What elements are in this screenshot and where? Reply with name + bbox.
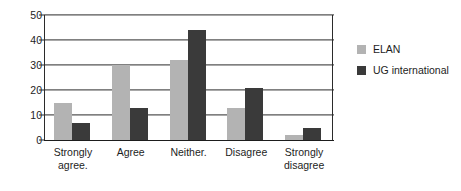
y-tick-mark	[39, 40, 44, 41]
bar	[130, 108, 148, 141]
legend-label: ELAN	[373, 44, 400, 55]
x-axis-category-labels: Stronglyagree.AgreeNeither.DisagreeStron…	[0, 146, 461, 186]
y-tick-mark	[39, 140, 44, 141]
bar	[72, 123, 90, 141]
legend-label: UG international	[373, 65, 449, 76]
legend: ELANUG international	[357, 40, 461, 82]
y-tick-mark	[39, 15, 44, 16]
bar	[245, 88, 263, 141]
bar	[227, 108, 245, 141]
bar-chart: 01020304050 Stronglyagree.AgreeNeither.D…	[0, 0, 461, 191]
legend-swatch-icon	[357, 45, 366, 54]
bar	[188, 30, 206, 140]
legend-swatch-icon	[357, 66, 366, 75]
bar	[54, 103, 72, 141]
bar	[285, 135, 303, 140]
bar	[170, 60, 188, 140]
x-tick-label: Stronglydisagree	[265, 146, 343, 171]
y-tick-mark	[39, 65, 44, 66]
legend-item: ELAN	[357, 40, 461, 58]
y-tick-mark	[39, 115, 44, 116]
y-tick-mark	[39, 90, 44, 91]
legend-item: UG international	[357, 61, 461, 79]
bar	[112, 65, 130, 140]
bar	[303, 128, 321, 141]
